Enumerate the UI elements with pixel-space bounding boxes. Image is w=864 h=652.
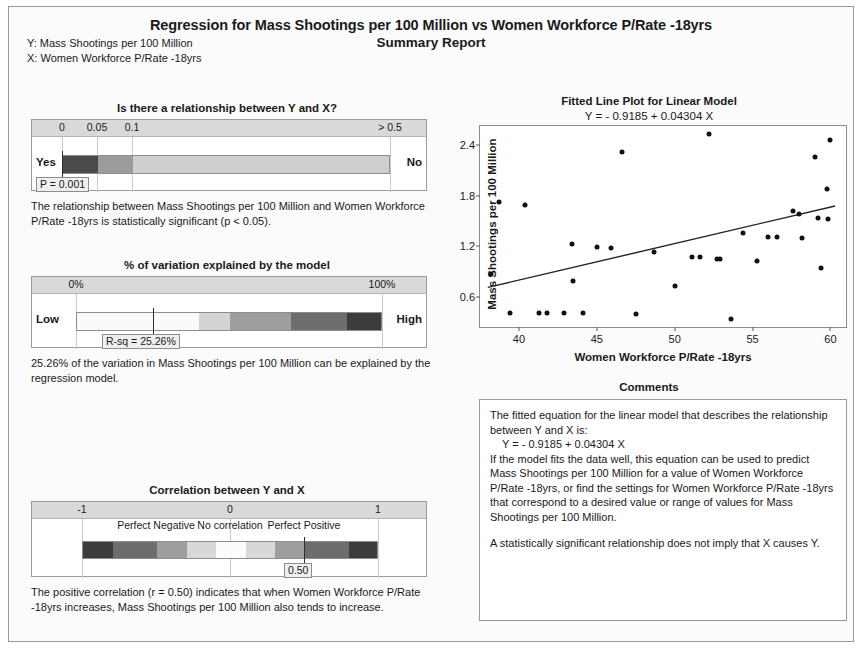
correlation-gauge: -1 0 1 Perfect Negative No correlation P… bbox=[31, 501, 427, 577]
plot-x-tick-1: 45 bbox=[591, 333, 603, 345]
plot-x-tick-2: 50 bbox=[669, 333, 681, 345]
data-point bbox=[633, 312, 638, 317]
data-point bbox=[507, 310, 512, 315]
summary-report-card: Regression for Mass Shootings per 100 Mi… bbox=[8, 6, 854, 642]
rsq-tick-left: 0% bbox=[68, 278, 83, 290]
data-point bbox=[523, 202, 528, 207]
x-variable-label: X: Women Workforce P/Rate -18yrs bbox=[27, 52, 201, 64]
data-point bbox=[815, 215, 820, 220]
data-point bbox=[571, 279, 576, 284]
correlation-scale: -1 0 1 bbox=[32, 502, 426, 519]
rsq-gridline-right bbox=[382, 294, 383, 349]
rsq-bar bbox=[76, 312, 382, 331]
comments-box: The fitted equation for the linear model… bbox=[479, 399, 847, 621]
rsq-callout: R-sq = 25.26% bbox=[102, 334, 180, 349]
data-point bbox=[717, 257, 722, 262]
data-point bbox=[828, 138, 833, 143]
plot-x-tickmark-4 bbox=[830, 327, 831, 331]
scatter-plot: Mass Shootings per 100 Million 0.61.21.8… bbox=[479, 125, 847, 328]
plot-x-tick-4: 60 bbox=[824, 333, 836, 345]
correlation-tick-1: 1 bbox=[375, 503, 381, 515]
rsq-right-label: High bbox=[396, 313, 422, 325]
plot-y-tick-0: 0.6 bbox=[460, 291, 475, 303]
plot-title: Fitted Line Plot for Linear Model bbox=[449, 95, 849, 107]
plot-x-tick-0: 40 bbox=[513, 333, 525, 345]
data-point bbox=[562, 310, 567, 315]
correlation-gauge-body: Perfect Negative No correlation Perfect … bbox=[32, 519, 426, 578]
plot-x-tickmark-2 bbox=[674, 327, 675, 331]
rsq-panel-title: % of variation explained by the model bbox=[27, 259, 427, 271]
rsq-left-label: Low bbox=[36, 313, 59, 325]
rsq-gauge: 0% 100% Low High R-sq = 25.26% bbox=[31, 276, 427, 348]
plot-x-tickmark-1 bbox=[596, 327, 597, 331]
correlation-callout: 0.50 bbox=[284, 563, 312, 578]
data-point bbox=[775, 235, 780, 240]
data-point bbox=[496, 200, 501, 205]
pvalue-gauge-body: Yes No P = 0.001 bbox=[32, 137, 426, 192]
correlation-interpretation: The positive correlation (r = 0.50) indi… bbox=[31, 585, 436, 614]
comment-line-0: The fitted equation for the linear model… bbox=[490, 408, 836, 437]
comment-line-2: If the model fits the data well, this eq… bbox=[490, 452, 836, 525]
data-point bbox=[580, 311, 585, 316]
pvalue-tick-0: 0 bbox=[59, 121, 65, 133]
pvalue-marker bbox=[62, 151, 63, 178]
data-point bbox=[544, 310, 549, 315]
rsq-scale: 0% 100% bbox=[32, 277, 426, 294]
fitted-regression-line bbox=[488, 206, 835, 287]
correlation-panel-title: Correlation between Y and X bbox=[27, 484, 427, 496]
data-point bbox=[826, 217, 831, 222]
comment-line-3: A statistically significant relationship… bbox=[490, 536, 836, 551]
plot-x-tickmark-3 bbox=[752, 327, 753, 331]
correlation-tick-0: 0 bbox=[227, 503, 233, 515]
pvalue-gridline-3 bbox=[390, 137, 391, 192]
rsq-marker bbox=[153, 308, 154, 335]
data-point bbox=[800, 235, 805, 240]
data-point bbox=[706, 131, 711, 136]
data-point bbox=[791, 208, 796, 213]
rsq-interpretation: 25.26% of the variation in Mass Shooting… bbox=[31, 356, 436, 385]
data-point bbox=[569, 241, 574, 246]
correlation-desc-positive: Perfect Positive bbox=[230, 519, 378, 531]
correlation-tick-neg1: -1 bbox=[77, 503, 86, 515]
correlation-bar bbox=[82, 541, 378, 559]
pvalue-interpretation: The relationship between Mass Shootings … bbox=[31, 199, 436, 228]
data-point bbox=[619, 150, 624, 155]
pvalue-gauge: 0 0.05 0.1 > 0.5 Yes No P = 0.001 bbox=[31, 119, 427, 191]
plot-y-tick-1: 1.2 bbox=[460, 240, 475, 252]
rsq-gauge-body: Low High R-sq = 25.26% bbox=[32, 294, 426, 349]
plot-x-tick-3: 55 bbox=[746, 333, 758, 345]
correlation-gridline-1 bbox=[378, 519, 379, 578]
pvalue-right-label: No bbox=[407, 156, 422, 168]
pvalue-tick-1: 0.05 bbox=[87, 121, 107, 133]
data-point bbox=[766, 235, 771, 240]
comment-line-1: Y = - 0.9185 + 0.04304 X bbox=[490, 437, 836, 452]
plot-equation: Y = - 0.9185 + 0.04304 X bbox=[449, 110, 849, 122]
data-point bbox=[537, 310, 542, 315]
plot-x-tickmark-0 bbox=[518, 327, 519, 331]
pvalue-callout: P = 0.001 bbox=[36, 177, 89, 192]
pvalue-scale: 0 0.05 0.1 > 0.5 bbox=[32, 120, 426, 137]
plot-y-tick-2: 1.8 bbox=[460, 190, 475, 202]
data-point bbox=[608, 246, 613, 251]
comments-title: Comments bbox=[449, 381, 849, 393]
data-point bbox=[689, 254, 694, 259]
data-point bbox=[819, 266, 824, 271]
data-point bbox=[672, 284, 677, 289]
pvalue-bar bbox=[62, 155, 390, 174]
data-point bbox=[728, 316, 733, 321]
data-point bbox=[594, 245, 599, 250]
data-point bbox=[825, 186, 830, 191]
data-point bbox=[488, 272, 493, 277]
pvalue-panel-title: Is there a relationship between Y and X? bbox=[27, 102, 427, 114]
data-point bbox=[741, 230, 746, 235]
correlation-marker bbox=[304, 537, 305, 563]
y-variable-label: Y: Mass Shootings per 100 Million bbox=[27, 37, 193, 49]
data-point bbox=[755, 258, 760, 263]
plot-canvas bbox=[480, 126, 846, 327]
page-title: Regression for Mass Shootings per 100 Mi… bbox=[9, 17, 853, 33]
pvalue-tick-2: 0.1 bbox=[125, 121, 140, 133]
pvalue-left-label: Yes bbox=[36, 156, 56, 168]
data-point bbox=[652, 250, 657, 255]
plot-x-axis-label: Women Workforce P/Rate -18yrs bbox=[479, 351, 847, 363]
rsq-tick-right: 100% bbox=[369, 278, 396, 290]
